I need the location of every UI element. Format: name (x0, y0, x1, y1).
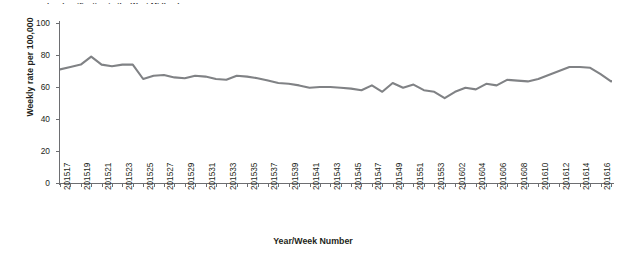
x-tick-201550 (403, 183, 404, 187)
x-tick-201608 (517, 183, 518, 187)
chart-root: by classification in the West Midlands W… (0, 0, 626, 258)
x-tick-201548 (382, 183, 383, 187)
x-tick-201553 (434, 183, 435, 187)
x-tick-201524 (133, 183, 134, 187)
x-tick-201602 (455, 183, 456, 187)
x-tick-201531 (206, 183, 207, 187)
x-tick-201529 (185, 183, 186, 187)
x-tick-201539 (289, 183, 290, 187)
x-tick-201612 (559, 183, 560, 187)
x-tick-201536 (258, 183, 259, 187)
x-tick-201533 (226, 183, 227, 187)
x-tick-201541 (310, 183, 311, 187)
x-tick-201609 (528, 183, 529, 187)
x-tick-201611 (549, 183, 550, 187)
x-tick-201532 (216, 183, 217, 187)
x-tick-201525 (143, 183, 144, 187)
x-tick-201601 (445, 183, 446, 187)
chart-title-clipped: by classification in the West Midlands (47, 0, 279, 4)
x-tick-201615 (590, 183, 591, 187)
y-tick-label-20: 20 (10, 147, 50, 155)
x-tick-201518 (70, 183, 71, 187)
x-tick-201610 (538, 183, 539, 187)
y-tick-label-40: 40 (10, 115, 50, 123)
x-tick-201527 (164, 183, 165, 187)
x-tick-201526 (154, 183, 155, 187)
x-tick-201606 (497, 183, 498, 187)
x-tick-201540 (299, 183, 300, 187)
x-tick-201530 (195, 183, 196, 187)
x-tick-201603 (465, 183, 466, 187)
x-tick-201552 (424, 183, 425, 187)
y-tick-label-0: 0 (10, 179, 50, 187)
x-tick-201521 (102, 183, 103, 187)
x-tick-201544 (341, 183, 342, 187)
chart-title-text: by classification in the West Midlands (47, 1, 184, 4)
x-tick-201614 (580, 183, 581, 187)
x-tick-201542 (320, 183, 321, 187)
x-tick-201617 (611, 183, 612, 187)
data-line-series-1 (60, 57, 612, 99)
x-tick-201543 (330, 183, 331, 187)
x-tick-201613 (569, 183, 570, 187)
x-tick-201534 (237, 183, 238, 187)
x-tick-201537 (268, 183, 269, 187)
x-tick-201528 (174, 183, 175, 187)
x-tick-201605 (486, 183, 487, 187)
x-tick-201546 (361, 183, 362, 187)
x-tick-201519 (81, 183, 82, 187)
x-tick-201549 (393, 183, 394, 187)
y-tick-label-80: 80 (10, 51, 50, 59)
x-tick-201607 (507, 183, 508, 187)
x-tick-201545 (351, 183, 352, 187)
x-tick-201538 (278, 183, 279, 187)
x-tick-201551 (413, 183, 414, 187)
y-tick-label-100: 100 (10, 19, 50, 27)
x-tick-201604 (476, 183, 477, 187)
x-tick-201523 (122, 183, 123, 187)
x-tick-201517 (60, 183, 61, 187)
x-tick-201547 (372, 183, 373, 187)
x-tick-201522 (112, 183, 113, 187)
x-axis-title: Year/Week Number (0, 236, 626, 246)
y-tick-label-60: 60 (10, 83, 50, 91)
x-tick-201616 (601, 183, 602, 187)
x-tick-201535 (247, 183, 248, 187)
x-tick-201520 (91, 183, 92, 187)
plot-area (60, 23, 612, 183)
